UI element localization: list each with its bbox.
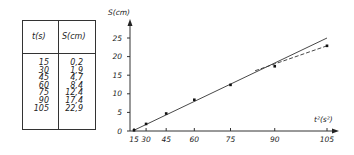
data-points bbox=[133, 45, 329, 132]
svg-text:90: 90 bbox=[270, 135, 280, 144]
y-axis-label: S(cm) bbox=[108, 8, 130, 17]
svg-text:75: 75 bbox=[226, 135, 236, 144]
svg-text:0: 0 bbox=[117, 127, 122, 136]
x-axis-label: t²(s²) bbox=[314, 115, 333, 124]
svg-text:45: 45 bbox=[161, 135, 171, 144]
svg-text:105: 105 bbox=[320, 135, 335, 144]
svg-text:10: 10 bbox=[112, 89, 122, 98]
svg-text:15: 15 bbox=[129, 135, 139, 144]
svg-text:5: 5 bbox=[117, 108, 122, 117]
svg-text:60: 60 bbox=[190, 135, 200, 144]
x-ticks: 153045607590105 bbox=[129, 128, 334, 144]
svg-text:15: 15 bbox=[112, 71, 122, 80]
svg-text:25: 25 bbox=[112, 34, 122, 43]
chart: S(cm) t²(s²) 0510152025 153045607590105 bbox=[0, 0, 354, 155]
y-ticks: 0510152025 bbox=[112, 34, 130, 136]
svg-text:20: 20 bbox=[112, 52, 122, 61]
x-axis: t²(s²) bbox=[130, 115, 339, 134]
svg-text:30: 30 bbox=[141, 135, 151, 144]
